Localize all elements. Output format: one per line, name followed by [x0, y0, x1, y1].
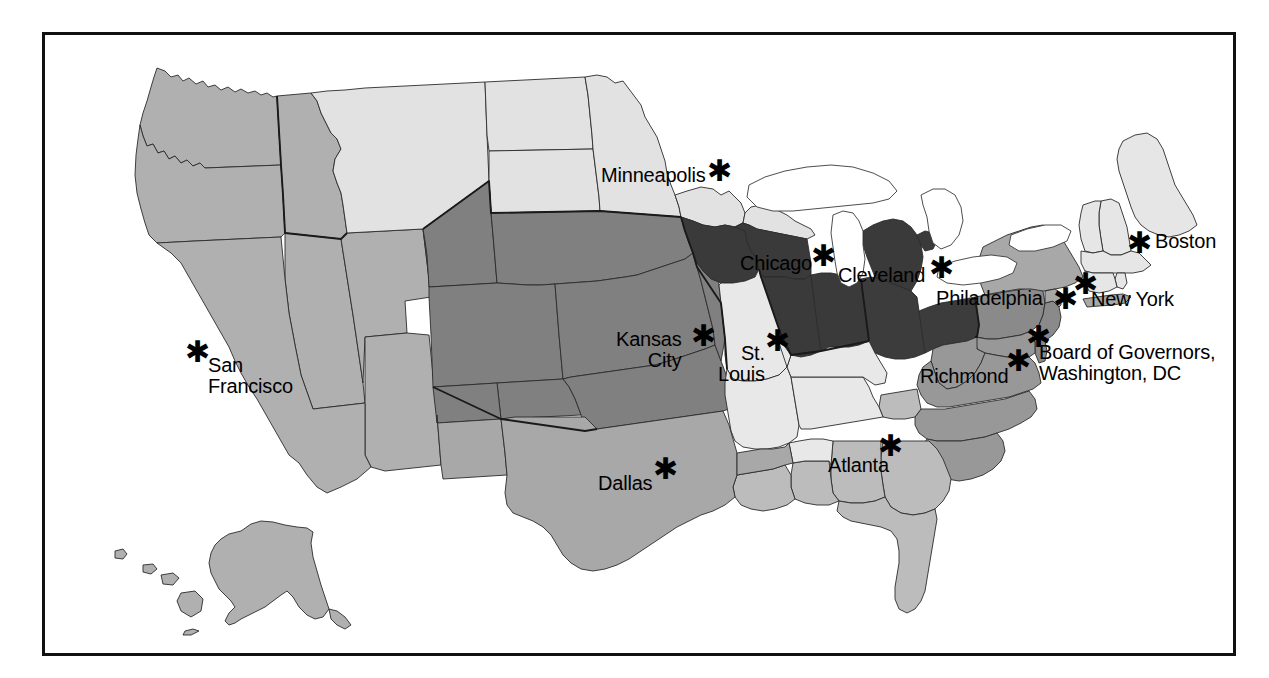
- star-marker-cleveland[interactable]: ✱: [929, 253, 954, 283]
- city-label-board-of-governors: Board of Governors, Washington, DC: [1039, 342, 1215, 384]
- star-marker-boston[interactable]: ✱: [1127, 228, 1152, 258]
- state-mississippi-north-st-louis: [789, 439, 833, 465]
- lake-superior: [747, 165, 897, 211]
- state-hawaii-kauai: [115, 549, 127, 559]
- state-south-dakota: [489, 149, 600, 213]
- city-label-kansas-city: Kansas City: [616, 329, 682, 371]
- state-alaska-panhandle: [329, 609, 351, 629]
- star-marker-dallas[interactable]: ✱: [653, 454, 678, 484]
- star-marker-san-francisco[interactable]: ✱: [185, 337, 210, 367]
- state-hawaii-maui: [161, 573, 179, 585]
- city-label-richmond: Richmond: [920, 366, 1008, 387]
- star-marker-chicago[interactable]: ✱: [811, 241, 836, 271]
- state-minnesota: [585, 75, 681, 217]
- star-marker-philadelphia[interactable]: ✱: [1053, 284, 1078, 314]
- star-marker-minneapolis[interactable]: ✱: [707, 156, 732, 186]
- state-vermont: [1079, 201, 1103, 253]
- city-label-st-louis: St. Louis: [718, 343, 765, 385]
- state-tennessee-east-atlanta: [879, 389, 921, 419]
- star-marker-kansas-city[interactable]: ✱: [691, 321, 716, 351]
- map-page: ✱Minneapolis✱Chicago✱Cleveland✱Boston✱Ne…: [0, 0, 1269, 678]
- state-maine: [1117, 133, 1197, 237]
- state-arizona: [365, 333, 441, 471]
- star-marker-st-louis[interactable]: ✱: [765, 326, 790, 356]
- city-label-san-francisco: San Francisco: [208, 355, 293, 397]
- state-tennessee-west-st-louis: [791, 377, 883, 429]
- state-hawaii-oahu: [143, 564, 157, 574]
- state-new-mexico-south-dallas: [437, 415, 507, 479]
- city-label-cleveland: Cleveland: [838, 265, 925, 286]
- state-florida: [837, 497, 937, 613]
- state-north-dakota: [485, 77, 593, 151]
- city-label-chicago: Chicago: [740, 253, 812, 274]
- city-label-minneapolis: Minneapolis: [601, 165, 706, 186]
- state-colorado: [429, 283, 563, 387]
- city-label-philadelphia: Philadelphia: [936, 288, 1043, 309]
- city-label-dallas: Dallas: [598, 473, 652, 494]
- city-label-new-york: New York: [1091, 289, 1174, 310]
- city-label-boston: Boston: [1155, 231, 1216, 252]
- map-border-frame: ✱Minneapolis✱Chicago✱Cleveland✱Boston✱Ne…: [42, 32, 1236, 656]
- state-hawaii-bigisland: [177, 591, 203, 617]
- state-alaska-inset: [209, 521, 329, 625]
- state-alaska-aleutians: [183, 629, 199, 635]
- city-label-atlanta: Atlanta: [828, 455, 889, 476]
